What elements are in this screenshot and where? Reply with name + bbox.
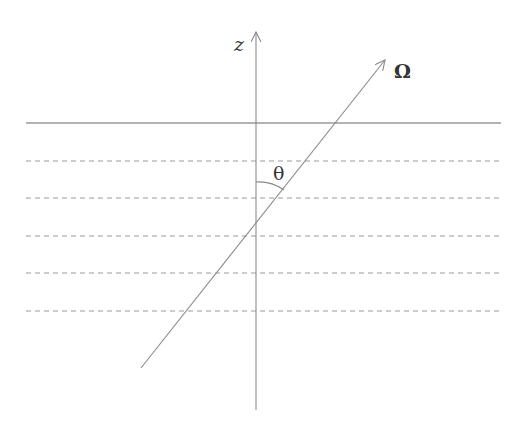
dashed-layers xyxy=(26,161,501,311)
theta-label: θ xyxy=(273,162,284,184)
z-axis-label: z xyxy=(233,33,245,55)
omega-direction-arrow xyxy=(141,60,385,368)
diagram-canvas: z Ω θ xyxy=(0,0,526,427)
omega-label: Ω xyxy=(394,60,411,82)
